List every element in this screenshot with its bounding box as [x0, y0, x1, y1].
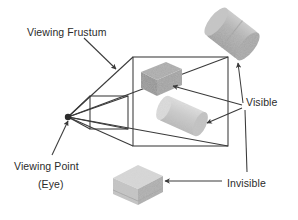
leader-invisible — [245, 110, 247, 172]
eye-point-marker — [65, 114, 71, 120]
label-invisible: Invisible — [227, 177, 266, 189]
label-eye: (Eye) — [38, 178, 64, 190]
ray-near-bottom-right — [68, 117, 128, 129]
label-viewing-point: Viewing Point — [14, 160, 79, 172]
arrow-visible-box-inside — [173, 86, 242, 105]
cylinder-inside-frustum — [153, 94, 211, 139]
frustum-edge-bottom-left — [68, 117, 133, 146]
label-viewing-frustum: Viewing Frustum — [27, 26, 107, 38]
arrow-visible-cylinder-inside — [207, 108, 242, 123]
ray-near-top-right — [68, 96, 128, 117]
ray-near-top-left — [68, 96, 90, 117]
cylinder-outside-top-right — [200, 4, 263, 64]
arrow-viewpoint — [52, 121, 68, 155]
box-inside-frustum — [141, 62, 182, 96]
arrow-frustum — [84, 38, 116, 69]
arrow-visible-cylinder-outside — [238, 63, 243, 103]
label-visible: Visible — [246, 96, 277, 108]
annotation-arrows — [52, 38, 247, 181]
figure-canvas: Viewing Frustum Viewing Point (Eye) Visi… — [0, 0, 298, 220]
cube-outside-bottom — [113, 165, 163, 205]
